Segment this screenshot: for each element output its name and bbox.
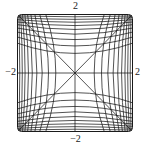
axis-tick-label-bottom: −2 (0, 134, 151, 144)
axis-tick-label-left: −2 (1, 67, 16, 77)
contour-plot-figure: 2 −2 −2 2 (0, 0, 151, 149)
contour-plot-canvas (0, 0, 151, 149)
axis-tick-label-top: 2 (0, 1, 151, 11)
axis-tick-label-right: 2 (135, 67, 150, 77)
